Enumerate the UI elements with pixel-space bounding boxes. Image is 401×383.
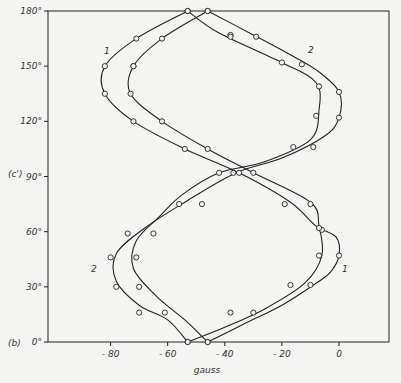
curves bbox=[101, 11, 341, 342]
data-point-marker bbox=[131, 119, 136, 124]
data-point-marker bbox=[308, 282, 313, 287]
data-point-marker bbox=[185, 8, 190, 13]
curve-series-3 bbox=[128, 11, 323, 342]
data-point-marker bbox=[282, 201, 287, 206]
y-tick-label: 0° bbox=[32, 337, 42, 347]
data-point-marker bbox=[279, 60, 284, 65]
data-point-marker bbox=[251, 170, 256, 175]
x-tick-label: - 20 bbox=[273, 349, 291, 359]
data-point-marker bbox=[231, 170, 236, 175]
data-point-marker bbox=[125, 231, 130, 236]
data-point-marker bbox=[336, 253, 341, 258]
data-point-marker bbox=[316, 253, 321, 258]
data-point-marker bbox=[128, 91, 133, 96]
y-tick-label: 30° bbox=[26, 282, 42, 292]
data-point-marker bbox=[205, 8, 210, 13]
y-tick-label: 90° bbox=[26, 172, 42, 182]
data-point-marker bbox=[177, 201, 182, 206]
data-point-marker bbox=[251, 310, 256, 315]
data-point-marker bbox=[137, 284, 142, 289]
data-point-marker bbox=[316, 84, 321, 89]
data-point-marker bbox=[162, 310, 167, 315]
y-tick-label: 120° bbox=[20, 116, 42, 126]
data-point-marker bbox=[205, 339, 210, 344]
data-point-marker bbox=[134, 36, 139, 41]
data-point-marker bbox=[291, 144, 296, 149]
y-axis: 0°30°60°90°120°150°180° bbox=[20, 6, 48, 347]
data-point-marker bbox=[299, 62, 304, 67]
y-tick-label: 180° bbox=[20, 6, 42, 16]
data-point-marker bbox=[336, 115, 341, 120]
data-point-marker bbox=[336, 89, 341, 94]
data-point-marker bbox=[288, 282, 293, 287]
x-tick-label: 0 bbox=[336, 349, 342, 359]
data-point-marker bbox=[185, 339, 190, 344]
data-point-marker bbox=[108, 255, 113, 260]
data-point-marker bbox=[311, 144, 316, 149]
x-tick-label: - 80 bbox=[102, 349, 120, 359]
data-point-marker bbox=[102, 91, 107, 96]
plot-frame bbox=[48, 11, 389, 342]
series-label: 1 bbox=[104, 46, 110, 56]
panel-label: (b) bbox=[8, 338, 21, 348]
data-point-marker bbox=[228, 310, 233, 315]
series-label: 1 bbox=[342, 264, 348, 274]
curve-series-2 bbox=[113, 11, 341, 342]
data-point-marker bbox=[199, 201, 204, 206]
data-point-marker bbox=[159, 119, 164, 124]
data-point-marker bbox=[131, 64, 136, 69]
data-point-marker bbox=[205, 146, 210, 151]
y-tick-label: 60° bbox=[26, 227, 42, 237]
x-axis: - 80- 60- 40- 200 bbox=[102, 342, 342, 359]
x-tick-label: - 60 bbox=[159, 349, 177, 359]
data-point-marker bbox=[228, 34, 233, 39]
y-axis-label: (c') bbox=[8, 169, 22, 179]
data-point-marker bbox=[236, 170, 241, 175]
x-tick-label: - 40 bbox=[216, 349, 234, 359]
data-point-marker bbox=[316, 225, 321, 230]
chart-svg: 0°30°60°90°120°150°180° - 80- 60- 40- 20… bbox=[0, 0, 401, 383]
series-label: 2 bbox=[91, 264, 97, 274]
data-point-marker bbox=[159, 36, 164, 41]
series-label: 2 bbox=[308, 45, 314, 55]
data-point-marker bbox=[102, 64, 107, 69]
data-point-marker bbox=[308, 201, 313, 206]
data-point-marker bbox=[151, 231, 156, 236]
data-point-marker bbox=[254, 34, 259, 39]
data-point-marker bbox=[134, 255, 139, 260]
data-point-marker bbox=[314, 113, 319, 118]
data-point-marker bbox=[137, 310, 142, 315]
data-point-marker bbox=[216, 170, 221, 175]
data-point-marker bbox=[182, 146, 187, 151]
x-axis-label: gauss bbox=[194, 365, 221, 375]
data-point-marker bbox=[114, 284, 119, 289]
y-tick-label: 150° bbox=[20, 61, 42, 71]
